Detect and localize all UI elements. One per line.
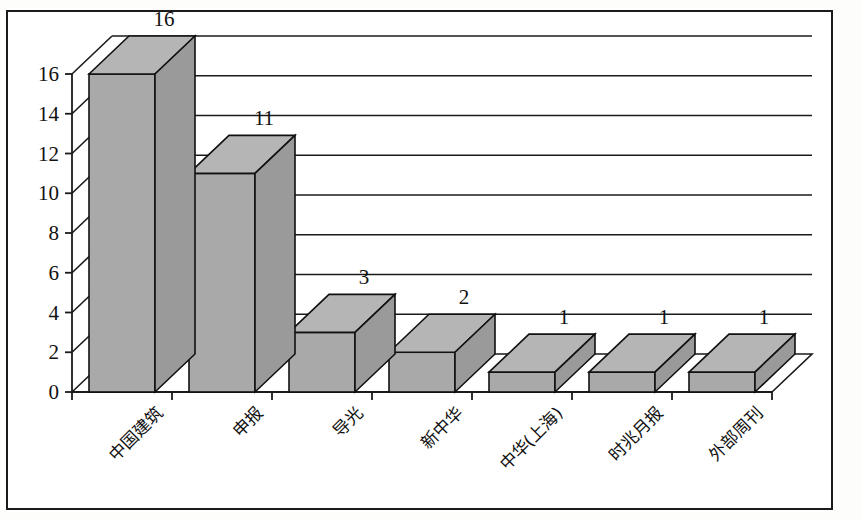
bar-front-face[interactable] <box>689 372 755 392</box>
chart-figure: 02468101214161外部周刊1时兆月报1中华(上海)2新中华3导光11申… <box>0 0 861 520</box>
bar-value-label: 2 <box>459 285 470 309</box>
y-tick-label: 10 <box>38 181 59 205</box>
y-tick-label: 16 <box>38 62 59 86</box>
bar-value-label: 16 <box>154 7 175 31</box>
bar-front-face[interactable] <box>489 372 555 392</box>
bar-value-label: 1 <box>559 305 570 329</box>
x-category-label: 申报 <box>229 403 267 441</box>
bars-group <box>89 36 795 392</box>
bar-value-label: 11 <box>254 106 274 130</box>
x-category-label: 导光 <box>329 403 367 441</box>
y-tick-label: 8 <box>49 221 60 245</box>
x-category-label: 外部周刊 <box>705 403 767 465</box>
bar-side-face <box>155 36 195 392</box>
y-tick-label: 6 <box>49 261 60 285</box>
bar-chart-svg: 02468101214161外部周刊1时兆月报1中华(上海)2新中华3导光11申… <box>0 0 861 520</box>
x-category-label: 中国建筑 <box>105 403 167 465</box>
plot-area: 02468101214161外部周刊1时兆月报1中华(上海)2新中华3导光11申… <box>0 0 861 520</box>
x-category-label: 中华(上海) <box>495 403 567 475</box>
bar-front-face[interactable] <box>589 372 655 392</box>
y-tick-label: 0 <box>49 380 60 404</box>
bar-value-label: 1 <box>659 305 670 329</box>
bar-value-label: 3 <box>359 265 370 289</box>
bar-side-face <box>255 135 295 392</box>
bar-column[interactable] <box>89 36 195 392</box>
bar-front-face[interactable] <box>89 74 155 392</box>
bar-front-face[interactable] <box>289 332 355 392</box>
y-tick-label: 2 <box>49 340 60 364</box>
y-tick-label: 14 <box>38 102 60 126</box>
bar-value-label: 1 <box>759 305 770 329</box>
y-tick-label: 12 <box>38 142 59 166</box>
x-category-label: 时兆月报 <box>605 403 667 465</box>
x-category-label: 新中华 <box>417 403 467 453</box>
bar-front-face[interactable] <box>189 173 255 392</box>
bar-front-face[interactable] <box>389 352 455 392</box>
y-tick-label: 4 <box>49 301 60 325</box>
bar-column[interactable] <box>189 135 295 392</box>
